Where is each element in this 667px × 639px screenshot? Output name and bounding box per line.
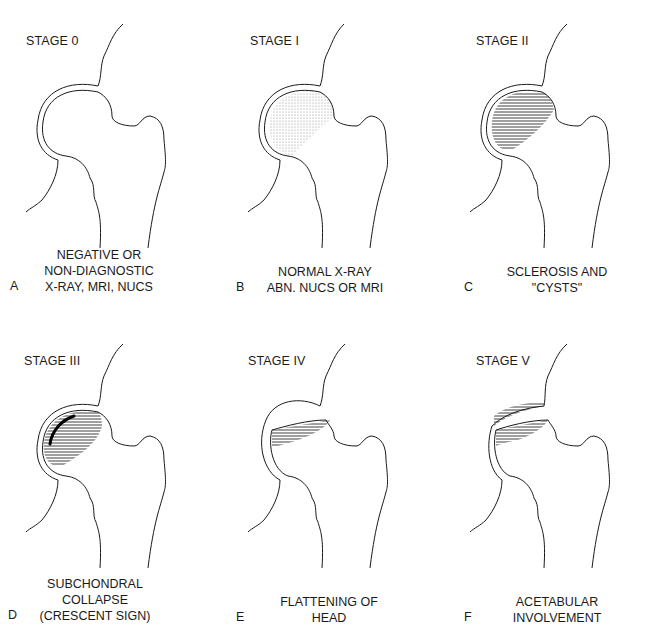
panel-letter: A xyxy=(10,279,18,293)
panel-letter: F xyxy=(464,610,472,624)
panel-caption: NORMAL X-RAY ABN. NUCS OR MRI xyxy=(260,264,390,296)
sclerosis-hatch xyxy=(484,421,564,445)
panel-letter: D xyxy=(8,608,17,622)
panel-caption: FLATTENING OF HEAD xyxy=(264,594,394,626)
panel-stage-0: STAGE 0 A NEGATIVE OR NON-DIAGNOSTIC X-R… xyxy=(0,0,222,320)
panel-stage-5: STAGE V F ACETABULAR INVOLVEMENT xyxy=(444,320,666,639)
femur-hip-drawing-acetabular xyxy=(444,320,666,639)
femur-hip-drawing-flattened xyxy=(222,320,444,639)
panel-stage-3: STAGE III D SUBCHONDRAL COLLAPSE (CRESCE… xyxy=(0,320,222,639)
panel-caption: NEGATIVE OR NON-DIAGNOSTIC X-RAY, MRI, N… xyxy=(34,247,164,295)
panel-letter: B xyxy=(236,280,244,294)
panel-stage-4: STAGE IV E FLATTENING OF HEAD xyxy=(222,320,444,639)
panel-stage-2: STAGE II C SCLEROSIS AND "CYSTS" xyxy=(444,0,666,320)
panel-letter: E xyxy=(236,610,244,624)
panel-stage-1: STAGE I B NORMAL X-RAY ABN. NUCS OR MRI xyxy=(222,0,444,320)
stippled-area xyxy=(270,91,334,156)
panel-caption: ACETABULAR INVOLVEMENT xyxy=(492,594,622,626)
acetabular-hatch xyxy=(484,401,564,425)
panel-caption: SUBCHONDRAL COLLAPSE (CRESCENT SIGN) xyxy=(30,576,160,624)
sclerosis-hatch xyxy=(262,421,342,445)
panel-letter: C xyxy=(464,280,473,294)
panel-caption: SCLEROSIS AND "CYSTS" xyxy=(492,264,622,296)
